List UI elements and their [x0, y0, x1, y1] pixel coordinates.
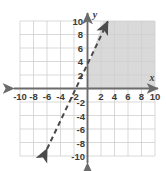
x-tick-label: 8	[139, 91, 144, 102]
y-axis-name-label: y	[92, 9, 98, 20]
coordinate-graph: -10 -8 -6 -4 -2 2 4 6 8 10 10 8 6 4 2 -2…	[0, 0, 166, 171]
x-tick-label: 2	[98, 91, 103, 102]
y-tick-label: -2	[77, 97, 85, 108]
y-tick-label: 10	[72, 16, 83, 27]
x-tick-label: -6	[43, 91, 51, 102]
x-tick-label: 10	[150, 91, 161, 102]
y-tick-label: 6	[78, 43, 83, 54]
y-tick-label: -10	[71, 151, 85, 162]
x-axis-name-label: x	[149, 72, 155, 83]
x-tick-label: 6	[125, 91, 130, 102]
x-tick-label: 4	[112, 91, 118, 102]
graph-canvas: -10 -8 -6 -4 -2 2 4 6 8 10 10 8 6 4 2 -2…	[0, 0, 166, 171]
y-tick-label: -8	[77, 138, 85, 149]
y-tick-label: 4	[78, 56, 84, 67]
y-tick-label: -6	[77, 124, 85, 135]
x-tick-label: -4	[56, 91, 65, 102]
x-tick-label: -8	[29, 91, 37, 102]
y-tick-label: -4	[77, 111, 86, 122]
y-tick-label: 8	[78, 29, 83, 40]
x-tick-label: -10	[13, 91, 27, 102]
y-tick-label: 2	[78, 70, 83, 81]
